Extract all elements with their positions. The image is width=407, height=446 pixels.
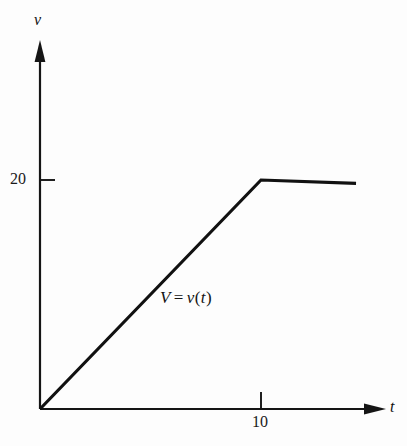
t-axis-name-label: t bbox=[390, 399, 394, 415]
t-axis-arrowhead-icon bbox=[364, 403, 386, 414]
v-axis-arrowhead-icon bbox=[35, 40, 46, 62]
plot-canvas bbox=[0, 0, 407, 446]
equation-close-paren: ) bbox=[206, 288, 212, 307]
equation-function-name: v bbox=[187, 288, 195, 307]
x-tick-label-10: 10 bbox=[252, 414, 268, 430]
curve-equation-annotation: V=v(t) bbox=[160, 289, 212, 306]
equation-operator: = bbox=[171, 288, 187, 307]
v-axis-name-label: v bbox=[34, 12, 41, 28]
velocity-time-graph-figure: v t 20 10 V=v(t) bbox=[0, 0, 407, 446]
y-tick-label-20: 20 bbox=[10, 171, 26, 187]
equation-lhs: V bbox=[160, 288, 171, 307]
